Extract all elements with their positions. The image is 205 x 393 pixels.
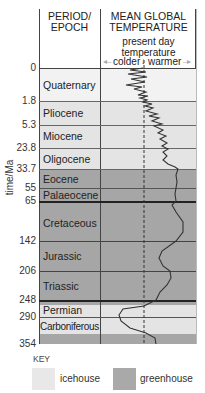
temperature-curve — [0, 0, 205, 393]
icehouse-label: icehouse — [60, 373, 100, 384]
key-title: KEY — [33, 354, 50, 364]
icehouse-swatch — [32, 368, 55, 390]
greenhouse-swatch — [113, 368, 136, 390]
greenhouse-label: greenhouse — [140, 373, 193, 384]
